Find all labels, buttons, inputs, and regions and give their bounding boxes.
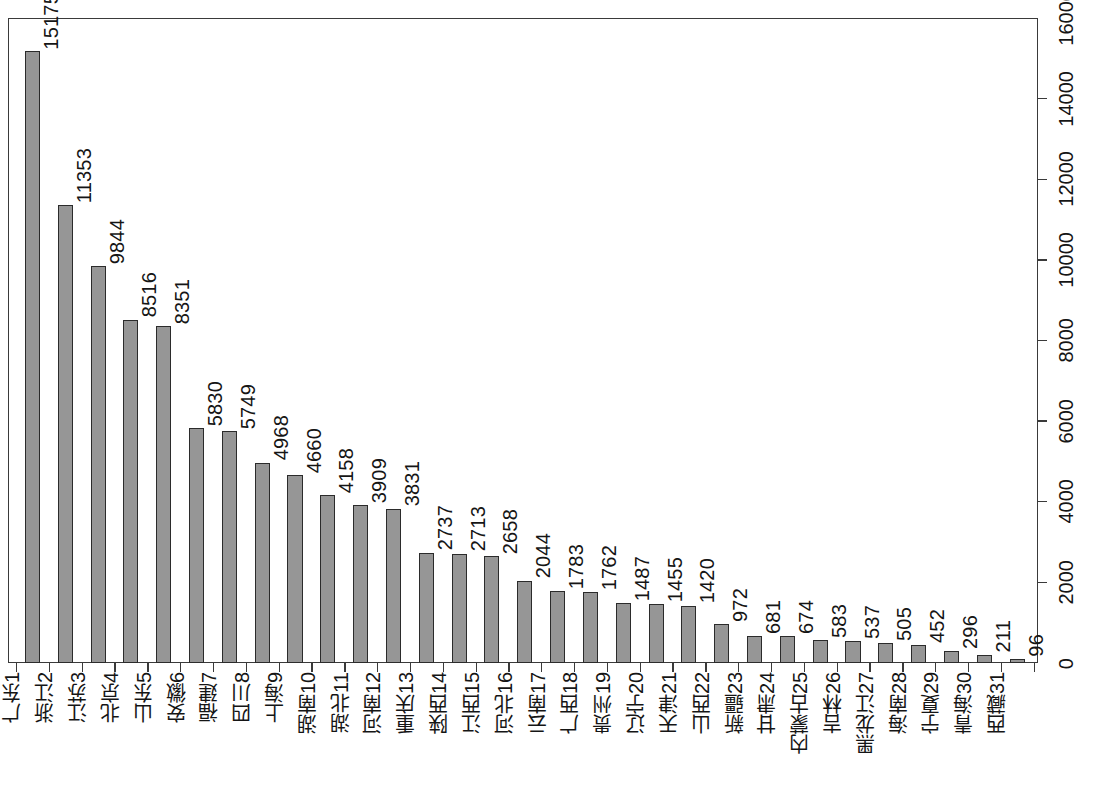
bar-rect[interactable]: [517, 581, 532, 663]
bar-安徽[interactable]: 5830: [189, 18, 204, 663]
bar-rect[interactable]: [813, 640, 828, 664]
category-tick: [213, 663, 214, 672]
bar-北京[interactable]: 8516: [123, 18, 138, 663]
bar-广西[interactable]: 1762: [583, 18, 598, 663]
bar-rect[interactable]: [123, 320, 138, 663]
category-tick: [443, 663, 444, 672]
bar-rect[interactable]: [484, 556, 499, 663]
category-name: 山西: [692, 694, 712, 734]
bar-rect[interactable]: [550, 591, 565, 663]
bar-rect[interactable]: [944, 651, 959, 663]
category-name: 广西: [560, 694, 580, 734]
bar-山东[interactable]: 8351: [156, 18, 171, 663]
value-tick-label: 0: [1056, 658, 1076, 669]
bar-rect[interactable]: [714, 624, 729, 663]
bar-rect[interactable]: [287, 475, 302, 663]
category-tick: [246, 663, 247, 672]
bar-湖南[interactable]: 4158: [320, 18, 335, 663]
bar-四川[interactable]: 4968: [255, 18, 270, 663]
bar-rect[interactable]: [911, 645, 926, 663]
category-tick: [869, 663, 870, 672]
bar-河南[interactable]: 3831: [386, 18, 401, 663]
bar-陕西[interactable]: 2713: [452, 18, 467, 663]
bar-rect[interactable]: [255, 463, 270, 663]
category-name: 河南: [363, 694, 383, 734]
category-rank: 28: [889, 672, 909, 694]
bar-河北[interactable]: 2044: [517, 18, 532, 663]
bar-rect[interactable]: [91, 266, 106, 663]
bar-rect[interactable]: [977, 655, 992, 664]
category-rank: 2: [35, 672, 55, 683]
category-tick: [640, 663, 641, 672]
category-tick: [738, 663, 739, 672]
bar-rect[interactable]: [681, 606, 696, 663]
category-rank: 11: [331, 672, 351, 693]
category-rank: 31: [987, 672, 1007, 694]
category-tick: [344, 663, 345, 672]
category-name: 吉林: [823, 694, 843, 734]
bar-广东[interactable]: 15175: [25, 18, 40, 663]
bar-rect[interactable]: [583, 592, 598, 663]
bar-rect[interactable]: [156, 326, 171, 663]
bar-rect[interactable]: [780, 636, 795, 663]
category-rank: 8: [232, 672, 252, 683]
category-tick: [1001, 663, 1002, 672]
bar-rect[interactable]: [616, 603, 631, 663]
bar-云南[interactable]: 1783: [550, 18, 565, 663]
category-rank: 22: [692, 672, 712, 694]
bar-重庆[interactable]: 2737: [419, 18, 434, 663]
category-rank: 29: [921, 672, 941, 694]
bar-宁夏[interactable]: 296: [944, 18, 959, 663]
category-rank: 6: [167, 672, 187, 683]
value-tick-label: 8000: [1056, 318, 1076, 363]
bar-新疆[interactable]: 681: [747, 18, 762, 663]
bar-黑龙江[interactable]: 505: [878, 18, 893, 663]
category-rank: 16: [495, 672, 515, 694]
bar-甘肃[interactable]: 674: [780, 18, 795, 663]
bar-江西[interactable]: 2658: [484, 18, 499, 663]
category-name: 青海: [954, 694, 974, 734]
bar-rect[interactable]: [58, 205, 73, 663]
bar-天津[interactable]: 1420: [681, 18, 696, 663]
category-name: 贵州: [593, 694, 613, 734]
bar-贵州[interactable]: 1487: [616, 18, 631, 663]
bar-吉林[interactable]: 537: [845, 18, 860, 663]
bar-rect[interactable]: [452, 554, 467, 663]
category-name: 湖北: [331, 693, 351, 733]
bar-rect[interactable]: [649, 604, 664, 663]
bar-rect[interactable]: [419, 553, 434, 663]
category-name: 河北: [495, 694, 515, 734]
category-tick: [574, 663, 575, 672]
bar-上海[interactable]: 4660: [287, 18, 302, 663]
value-tick-label: 16000: [1056, 0, 1076, 46]
bar-rect[interactable]: [25, 51, 40, 663]
category-rank: 25: [790, 672, 810, 694]
bar-辽宁[interactable]: 1455: [649, 18, 664, 663]
bar-内蒙古[interactable]: 583: [813, 18, 828, 663]
category-name: 山东: [134, 683, 154, 723]
bar-rect[interactable]: [747, 636, 762, 663]
bar-湖北[interactable]: 3909: [353, 18, 368, 663]
bar-rect[interactable]: [878, 643, 893, 663]
category-name: 宁夏: [921, 694, 941, 734]
value-tick: [1038, 259, 1047, 260]
bar-福建[interactable]: 5749: [222, 18, 237, 663]
category-tick: [771, 663, 772, 672]
bar-rect[interactable]: [386, 509, 401, 663]
bar-rect[interactable]: [222, 431, 237, 663]
bar-青海[interactable]: 211: [977, 18, 992, 663]
bar-rect[interactable]: [320, 495, 335, 663]
bar-rect[interactable]: [845, 641, 860, 663]
bar-山西[interactable]: 972: [714, 18, 729, 663]
bar-西藏[interactable]: 96: [1010, 18, 1025, 663]
bar-江苏[interactable]: 9844: [91, 18, 106, 663]
category-tick: [541, 663, 542, 672]
bar-rect[interactable]: [353, 505, 368, 663]
bar-浙江[interactable]: 11353: [58, 18, 73, 663]
bar-海南[interactable]: 452: [911, 18, 926, 663]
category-label-西藏: 31西藏: [987, 672, 1047, 789]
category-name: 安徽: [167, 683, 187, 723]
category-rank: 13: [396, 672, 416, 694]
bar-rect[interactable]: [189, 428, 204, 663]
bars-layer: 1517511353984485168351583057494968466041…: [8, 18, 1038, 663]
